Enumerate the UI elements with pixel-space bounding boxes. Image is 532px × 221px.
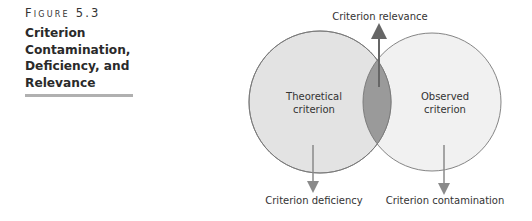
observed-label-line1: Observed xyxy=(421,91,469,102)
venn-diagram: Theoretical criterion Observed criterion… xyxy=(0,0,532,221)
criterion-contamination-label: Criterion contamination xyxy=(386,195,505,206)
theoretical-label-line1: Theoretical xyxy=(285,91,342,102)
observed-label-line2: criterion xyxy=(424,104,466,115)
criterion-relevance-label: Criterion relevance xyxy=(332,11,427,22)
theoretical-label-line2: criterion xyxy=(293,104,335,115)
criterion-deficiency-label: Criterion deficiency xyxy=(265,195,363,206)
